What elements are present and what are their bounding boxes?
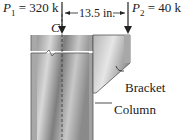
p2-value: = 40 k (148, 0, 181, 15)
p1-subscript: 1 (11, 8, 16, 18)
dimension-label: 13.5 in. (79, 7, 115, 19)
p2-label: P2 = 40 k (132, 1, 181, 18)
bracket-label: Bracket (125, 81, 165, 94)
p1-value: = 320 k (19, 0, 59, 15)
p2-symbol: P (132, 0, 140, 15)
column (29, 35, 97, 140)
p2-subscript: 2 (140, 8, 145, 18)
column-label: Column (114, 103, 156, 116)
p2-arrow-icon (124, 2, 132, 34)
p1-symbol: P (3, 0, 11, 15)
diagram-canvas (0, 0, 183, 140)
p1-label: P1 = 320 k (3, 1, 59, 18)
centroid-label: C (51, 21, 60, 34)
